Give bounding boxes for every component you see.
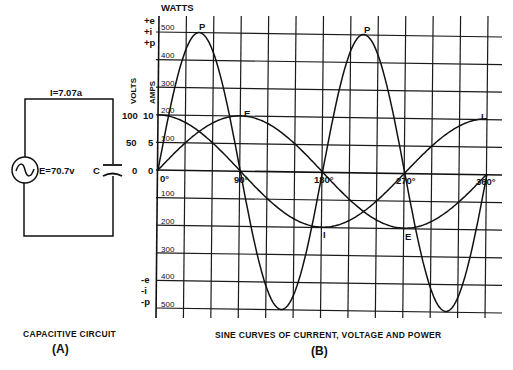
amps-tick-10: 10 (143, 110, 154, 121)
watts-tick-neg-100: 100 (161, 189, 175, 198)
positive-label-i: +i (144, 26, 152, 37)
sine-graph: WATTS +e +i +p VOLTS AMPS 100 50 0 10 5 … (122, 2, 502, 358)
curve-label-power-1: P (199, 21, 206, 32)
watts-tick-neg-400: 400 (161, 272, 175, 281)
grid-vertical-line (375, 16, 378, 318)
circuit-current-label: I=7.07a (50, 87, 83, 98)
capacitor-label: C (93, 165, 100, 176)
grid-vertical-line (348, 16, 351, 318)
grid-horizontal-line (156, 60, 502, 65)
negative-label-i: -i (141, 285, 147, 296)
positive-label-p: +p (144, 37, 156, 48)
amps-axis-label: AMPS (148, 80, 157, 104)
watts-tick-100: 100 (161, 134, 175, 143)
curve-label-current-bottom: I (323, 229, 326, 240)
grid-vertical-line (458, 16, 461, 318)
capacitor-icon (103, 165, 122, 176)
grid-horizontal-line (156, 253, 502, 258)
volts-axis-label: VOLTS (129, 77, 138, 104)
volts-tick-100: 100 (122, 110, 138, 121)
grid-vertical-line (183, 16, 186, 318)
negative-label-e: -e (141, 274, 149, 285)
circuit-caption-letter: (A) (52, 342, 69, 356)
degree-label-270: 270° (396, 175, 416, 186)
grid-horizontal-line (156, 280, 502, 285)
grid-vertical-line (211, 16, 214, 318)
degree-label-90: 90° (234, 174, 249, 185)
capacitive-circuit-figure: I=7.07a E=70.7v C CAPACITIVE CIRCUIT (A)… (0, 0, 513, 370)
watts-tick-300: 300 (161, 79, 175, 88)
degree-label-180: 180° (314, 174, 334, 185)
volts-tick-0: 0 (132, 165, 137, 176)
degree-label-360: 360° (476, 176, 496, 187)
positive-label-e: +e (144, 15, 155, 26)
amps-tick-0: 0 (148, 165, 153, 176)
circuit-voltage-label: E=70.7v (39, 165, 75, 176)
curve-label-voltage-top: E (244, 108, 250, 119)
curve-label-power-2: P (364, 24, 371, 35)
graph-caption-letter: (B) (311, 344, 328, 358)
circuit-diagram: I=7.07a E=70.7v C CAPACITIVE CIRCUIT (A) (12, 87, 122, 356)
amps-tick-5: 5 (148, 137, 154, 148)
graph-caption: SINE CURVES OF CURRENT, VOLTAGE AND POWE… (215, 330, 441, 340)
watts-tick-neg-200: 200 (161, 217, 175, 226)
curve-label-current-right: I (481, 111, 484, 122)
watts-tick-500: 500 (161, 23, 175, 32)
grid-vertical-line (430, 16, 433, 318)
watts-tick-400: 400 (161, 51, 175, 60)
grid-horizontal-line (156, 142, 502, 147)
grid-horizontal-line (156, 32, 502, 37)
watts-tick-200: 200 (161, 106, 175, 115)
volts-tick-50: 50 (126, 137, 137, 148)
degree-label-0: 0° (160, 173, 169, 184)
grid-horizontal-line (156, 87, 502, 92)
grid-vertical-line (485, 16, 488, 318)
graph-grid (156, 16, 502, 318)
watts-axis-label: WATTS (161, 2, 194, 13)
watts-tick-neg-300: 300 (161, 245, 175, 254)
negative-label-p: -p (141, 296, 150, 307)
watts-tick-neg-500: 500 (161, 300, 175, 309)
curve-label-voltage-bottom: E (405, 231, 411, 242)
circuit-caption: CAPACITIVE CIRCUIT (23, 329, 117, 339)
grid-horizontal-line (156, 115, 502, 120)
grid-horizontal-line (156, 225, 502, 230)
grid-horizontal-line (156, 198, 502, 203)
